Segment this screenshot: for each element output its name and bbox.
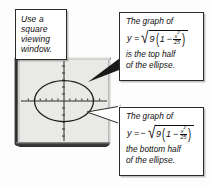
equation-lhs: y = — [127, 128, 139, 138]
callout-desc-line-2: of the ellipse. — [126, 60, 203, 70]
equation-negative-sign: − — [140, 128, 145, 138]
figure-root: Use a square viewing window. The graph o… — [0, 0, 210, 187]
fraction-denominator: 25 — [179, 135, 187, 141]
numerator-exponent: 2 — [177, 30, 179, 35]
callout-line: window. — [21, 44, 66, 54]
radical-sign: √ — [141, 31, 148, 45]
callout-desc-line-2: of the ellipse. — [126, 155, 203, 165]
calculator-bezel-bottom — [16, 142, 110, 147]
radicand: 9 ( 1 − x2 25 ) — [155, 125, 195, 141]
fraction: x2 25 — [173, 32, 181, 46]
callout-square-viewing-window: Use a square viewing window. — [15, 9, 67, 60]
term-one: 1 — [166, 129, 171, 139]
calculator-bezel-left — [14, 58, 18, 146]
callout-intro-text: The graph of — [126, 111, 203, 121]
callout-desc-line-1: is the top half — [126, 49, 203, 59]
fraction: x2 25 — [179, 127, 187, 141]
equation-top-half: y = √ 9 ( 1 − x2 25 ) — [127, 28, 203, 47]
equation-lhs: y = — [127, 33, 139, 43]
callout-bottom-half-of-ellipse: The graph of y = − √ 9 ( 1 − x2 25 — [119, 107, 204, 176]
callout-line: square — [21, 24, 66, 34]
radical-group: √ 9 ( 1 − x2 25 ) — [147, 125, 195, 141]
radical-sign: √ — [147, 126, 154, 140]
open-paren: ( — [162, 128, 165, 140]
equation-bottom-half: y = − √ 9 ( 1 − x2 25 ) — [127, 123, 203, 142]
callout-desc-line-1: the bottom half — [126, 144, 203, 154]
pointer-top-callout — [86, 56, 122, 84]
numerator-exponent: 2 — [184, 125, 186, 130]
radicand: 9 ( 1 − x2 25 ) — [149, 30, 189, 46]
callout-top-half-of-ellipse: The graph of y = √ 9 ( 1 − x2 25 ) — [119, 12, 204, 81]
term-one: 1 — [160, 34, 165, 44]
coefficient: 9 — [150, 34, 155, 44]
callout-intro-text: The graph of — [126, 16, 203, 26]
callout-line: Use a — [21, 14, 66, 24]
close-paren: ) — [188, 128, 191, 140]
inner-expression: 1 − x2 25 — [166, 127, 188, 141]
coefficient: 9 — [156, 129, 161, 139]
open-paren: ( — [156, 33, 159, 45]
close-paren: ) — [182, 33, 185, 45]
callout-line: viewing — [21, 34, 66, 44]
inner-expression: 1 − x2 25 — [160, 32, 182, 46]
fraction-denominator: 25 — [173, 40, 181, 46]
minus-operator: − — [173, 129, 178, 139]
minus-operator: − — [167, 34, 172, 44]
radical-group: √ 9 ( 1 − x2 25 ) — [140, 30, 188, 46]
